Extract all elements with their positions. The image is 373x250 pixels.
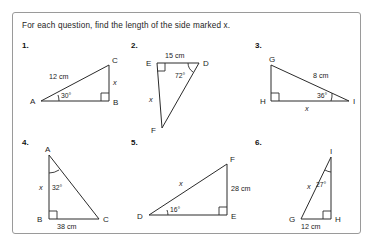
figure-question-6: I G H 12 cm x 27°: [259, 141, 359, 229]
right-angle-mark-6: [323, 211, 331, 219]
side-label-unknown-2: x: [148, 95, 153, 104]
right-angle-mark-4: [49, 211, 57, 219]
right-angle-mark-3: [271, 93, 279, 101]
vertex-label-H-3: H: [260, 97, 266, 106]
side-label-given-5: 28 cm: [231, 184, 251, 193]
vertex-label-A-4: A: [45, 145, 51, 154]
triangle-outline-5: [149, 164, 227, 215]
angle-arc-1: [58, 95, 59, 101]
vertex-label-E-2: E: [146, 59, 151, 68]
side-label-unknown-4: x: [38, 183, 43, 192]
angle-label-4: 32°: [52, 184, 63, 191]
vertex-label-F-2: F: [151, 126, 156, 135]
right-angle-mark-1: [101, 93, 109, 101]
side-label-given-6: 12 cm: [301, 222, 321, 231]
figure-question-2: E D F 15 cm x 72°: [135, 45, 235, 135]
vertex-label-A-1: A: [30, 97, 36, 106]
side-label-unknown-6: x: [306, 182, 311, 191]
vertex-label-I-6: I: [330, 147, 332, 156]
vertex-label-C-1: C: [112, 56, 118, 65]
vertex-label-E-5: E: [231, 212, 236, 221]
figure-question-3: G H I 8 cm x 36°: [259, 45, 363, 115]
angle-label-3: 36°: [317, 92, 328, 99]
angle-label-2: 72°: [175, 72, 186, 79]
angle-label-6: 27°: [316, 181, 327, 188]
vertex-label-G-6: G: [289, 215, 295, 224]
triangle-outline-3: [271, 65, 349, 101]
angle-arc-6: [325, 170, 331, 172]
figure-question-4: A B C 38 cm x 32°: [27, 141, 127, 229]
vertex-label-B-1: B: [113, 98, 118, 107]
right-angle-mark-5: [219, 207, 227, 215]
side-label-given-4: 38 cm: [57, 222, 77, 231]
side-label-given-1: 12 cm: [49, 72, 69, 81]
figure-question-1: A B C 12 cm x 30°: [27, 45, 137, 107]
triangle-outline-6: [301, 157, 331, 219]
triangle-outline-1: [41, 65, 109, 101]
vertex-label-G-3: G: [269, 55, 275, 64]
worksheet-panel: For each question, find the length of th…: [12, 12, 361, 234]
angle-label-1: 30°: [61, 92, 72, 99]
vertex-label-H-6: H: [335, 215, 341, 224]
right-angle-mark-2: [157, 63, 165, 71]
side-label-given-3: 8 cm: [313, 71, 329, 80]
instruction-text: For each question, find the length of th…: [22, 21, 230, 30]
vertex-label-B-4: B: [37, 215, 42, 224]
vertex-label-C-4: C: [103, 215, 109, 224]
figure-question-5: D E F 28 cm x 16°: [135, 141, 247, 221]
vertex-label-I-3: I: [353, 97, 355, 106]
side-label-unknown-5: x: [178, 179, 183, 188]
vertex-label-F-5: F: [230, 155, 235, 164]
side-label-unknown-1: x: [112, 78, 117, 87]
angle-label-5: 16°: [170, 206, 181, 213]
side-label-given-2: 15 cm: [165, 51, 185, 60]
angle-arc-5: [167, 210, 168, 215]
angle-arc-4: [49, 170, 59, 173]
vertex-label-D-5: D: [137, 212, 143, 221]
angle-arc-2: [188, 63, 193, 72]
vertex-label-D-2: D: [203, 59, 209, 68]
angle-arc-3: [331, 93, 332, 101]
side-label-unknown-3: x: [304, 104, 309, 113]
